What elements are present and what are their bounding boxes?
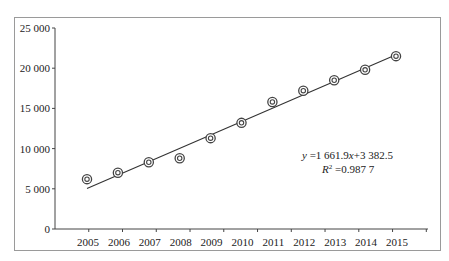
scatter-chart: 05 00010 00015 00020 00025 0002005200620… (0, 0, 449, 261)
x-tick-label: 2007 (139, 236, 162, 248)
r2-label: R2 =0.987 7 (321, 163, 375, 175)
data-point (113, 168, 122, 177)
annotations: y =1 661.9x+3 382.5 R2 =0.987 7 (301, 149, 393, 175)
data-point (299, 86, 308, 95)
x-tick-label: 2012 (293, 236, 315, 248)
x-tick-label: 2009 (201, 236, 224, 248)
data-point (144, 158, 153, 167)
y-tick-label: 10 000 (20, 143, 51, 155)
y-tick-label: 15 000 (20, 102, 51, 114)
data-point (175, 154, 184, 163)
data-point (82, 175, 91, 184)
x-tick-label: 2005 (77, 236, 100, 248)
x-tick-label: 2011 (263, 236, 285, 248)
data-point (237, 118, 246, 127)
y-tick-label: 25 000 (20, 22, 51, 34)
data-point (391, 52, 400, 61)
x-tick-label: 2010 (232, 236, 255, 248)
y-tick-label: 5 000 (25, 183, 50, 195)
data-point (268, 97, 277, 106)
y-tick-label: 0 (45, 223, 51, 235)
data-point (361, 65, 370, 74)
x-tick-label: 2014 (355, 236, 378, 248)
axes: 05 00010 00015 00020 00025 0002005200620… (20, 22, 428, 248)
equation-label: y =1 661.9x+3 382.5 (301, 149, 393, 161)
data-point (206, 134, 215, 143)
x-tick-label: 2015 (386, 236, 409, 248)
x-tick-label: 2008 (170, 236, 193, 248)
x-tick-label: 2006 (108, 236, 131, 248)
data-point (330, 76, 339, 85)
y-tick-label: 20 000 (20, 62, 51, 74)
x-tick-label: 2013 (324, 236, 347, 248)
